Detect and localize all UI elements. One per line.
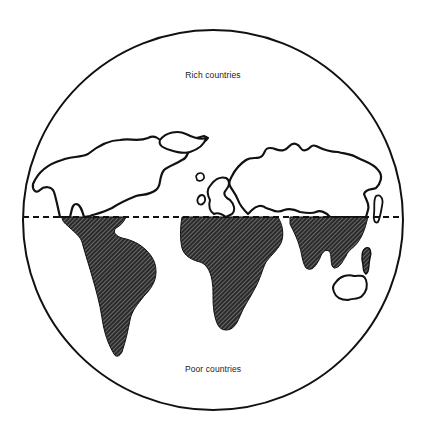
islands-shape <box>362 248 371 274</box>
africa-shape <box>181 217 283 330</box>
poor-countries-label: Poor countries <box>185 364 241 374</box>
iceland-shape <box>196 173 204 181</box>
british-isles-shape <box>197 195 205 205</box>
japan-shape <box>374 195 383 222</box>
australia-shape <box>333 275 367 300</box>
south-asia-shape <box>290 217 368 269</box>
eurasia-shape <box>229 144 381 217</box>
greenland-shape <box>160 132 206 153</box>
south-america-shape <box>62 217 156 356</box>
rich-countries-label: Rich countries <box>185 70 240 80</box>
